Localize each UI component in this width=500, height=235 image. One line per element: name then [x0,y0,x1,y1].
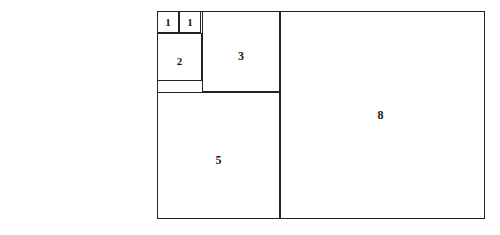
tile-label: 1 [187,17,193,28]
tile-one-b: 1 [179,11,201,33]
tile-five: 5 [157,92,280,219]
tile-eight: 8 [280,11,485,219]
tile-label: 2 [177,56,183,67]
fibonacci-tiling-right: 1 1 2 3 5 8 [0,0,500,235]
tile-label: 5 [216,154,222,166]
tile-label: 1 [165,17,171,28]
tile-three: 3 [202,11,280,92]
tile-one-a: 1 [157,11,179,33]
tile-label: 3 [238,50,244,62]
tile-two: 2 [157,33,202,81]
tile-label: 8 [378,109,384,121]
